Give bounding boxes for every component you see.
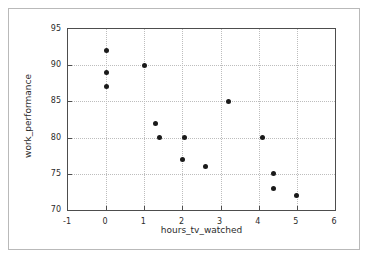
data-point <box>104 84 109 89</box>
y-tick-label: 95 <box>51 24 61 33</box>
figure-panel: -10123456 707580859095 hours_tv_watched … <box>8 8 360 250</box>
data-point <box>226 99 231 104</box>
gridline-horizontal <box>68 138 335 139</box>
x-axis-tick <box>144 206 145 210</box>
x-axis-label: hours_tv_watched <box>67 225 336 235</box>
y-axis-tick <box>68 174 72 175</box>
y-axis-tick <box>68 138 72 139</box>
data-point <box>104 48 109 53</box>
y-tick-label: 75 <box>51 168 61 177</box>
data-point <box>260 135 265 140</box>
x-axis-tick <box>182 206 183 210</box>
y-tick-label: 90 <box>51 60 61 69</box>
gridline-vertical <box>259 29 260 210</box>
y-axis-tick <box>68 101 72 102</box>
y-tick-label: 85 <box>51 96 61 105</box>
gridline-vertical <box>221 29 222 210</box>
x-axis-tick <box>221 206 222 210</box>
data-point <box>203 164 208 169</box>
data-point <box>294 193 299 198</box>
data-point <box>157 135 162 140</box>
x-axis-tick <box>297 206 298 210</box>
data-point <box>271 186 276 191</box>
plot-area <box>67 28 336 211</box>
data-point <box>104 70 109 75</box>
data-point <box>271 171 276 176</box>
y-tick-label: 70 <box>51 205 61 214</box>
gridline-horizontal <box>68 101 335 102</box>
x-axis-tick-labels: -10123456 <box>67 211 336 225</box>
gridline-horizontal <box>68 65 335 66</box>
y-axis-tick <box>68 65 72 66</box>
data-point <box>180 157 185 162</box>
gridline-vertical <box>297 29 298 210</box>
x-axis-tick <box>259 206 260 210</box>
data-point <box>182 135 187 140</box>
gridline-vertical <box>182 29 183 210</box>
y-tick-label: 80 <box>51 132 61 141</box>
gridline-vertical <box>144 29 145 210</box>
y-axis-label: work_performance <box>23 36 33 196</box>
data-point <box>153 121 158 126</box>
gridline-horizontal <box>68 174 335 175</box>
data-point <box>142 63 147 68</box>
x-axis-tick <box>106 206 107 210</box>
gridline-vertical <box>106 29 107 210</box>
y-axis-tick-labels: 707580859095 <box>37 28 65 211</box>
